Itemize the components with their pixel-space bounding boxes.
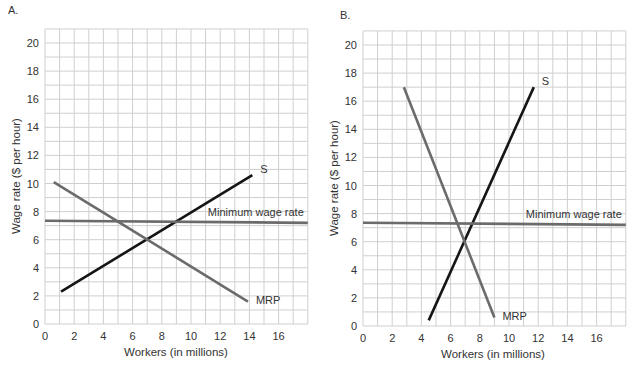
y-axis-title-a: Wage rate ($ per hour) [10,118,22,234]
y-tick-label: 12 [27,149,39,161]
mrp-curve [54,182,248,301]
x-axis-title-a: Workers (in millions) [124,346,228,358]
x-tick-label: 4 [418,332,424,344]
y-tick-label: 0 [33,318,39,330]
s-label: S [260,163,267,175]
x-tick-label: 8 [477,332,483,344]
x-tick-label: 12 [532,332,544,344]
minimum-wage-rate-label: Minimum wage rate [208,206,304,218]
x-tick-label: 16 [590,332,602,344]
grid-b [363,31,626,326]
y-tick-label: 10 [27,178,39,190]
y-tick-label: 2 [33,290,39,302]
y-tick-label: 14 [27,121,39,133]
y-tick-label: 8 [33,206,39,218]
y-tick-label: 6 [33,234,39,246]
mrp-label: MRP [256,294,280,306]
x-tick-label: 8 [159,330,165,342]
y-tick-label: 20 [345,39,357,51]
x-tick-label: 14 [561,332,573,344]
y-tick-label: 16 [345,95,357,107]
chart-panel-a: A. 024681012141602468101214161820 SMRPMi… [8,4,308,358]
panel-label-a: A. [8,4,18,16]
x-tick-label: 6 [448,332,454,344]
x-tick-label: 12 [214,330,226,342]
y-tick-label: 14 [345,123,357,135]
chart-panel-b: B. 024681012141602468101214161820 SMRPMi… [328,9,626,360]
x-tick-label: 10 [503,332,515,344]
s-curve [61,175,252,292]
y-tick-label: 20 [27,37,39,49]
x-tick-label: 0 [360,332,366,344]
x-tick-label: 2 [389,332,395,344]
x-tick-label: 14 [243,330,255,342]
y-tick-label: 18 [345,67,357,79]
x-axis-title-b: Workers (in millions) [441,348,545,360]
x-tick-label: 2 [71,330,77,342]
x-tick-label: 10 [185,330,197,342]
y-tick-label: 4 [351,264,357,276]
y-tick-label: 18 [27,65,39,77]
panel-label-b: B. [340,9,350,21]
y-tick-label: 16 [27,93,39,105]
y-tick-label: 10 [345,180,357,192]
grid-a [45,29,308,324]
x-tick-label: 6 [130,330,136,342]
y-tick-label: 6 [351,236,357,248]
minimum-wage-rate-curve [363,223,626,225]
x-tick-label: 4 [100,330,106,342]
minimum-wage-rate-label: Minimum wage rate [526,208,622,220]
y-tick-label: 4 [33,262,39,274]
minimum-wage-rate-curve [45,221,308,223]
y-tick-label: 0 [351,320,357,332]
y-tick-label: 12 [345,151,357,163]
mrp-label: MRP [502,310,526,322]
y-tick-label: 2 [351,292,357,304]
figure-canvas: A. 024681012141602468101214161820 SMRPMi… [0,0,628,373]
y-tick-label: 8 [351,208,357,220]
y-axis-title-b: Wage rate ($ per hour) [328,120,340,236]
x-tick-label: 0 [42,330,48,342]
x-tick-label: 16 [272,330,284,342]
s-label: S [542,75,549,87]
